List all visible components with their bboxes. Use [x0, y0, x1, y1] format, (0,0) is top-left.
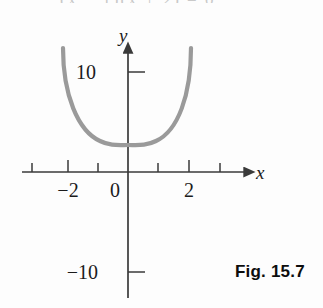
x-tick-label--2: −2: [57, 180, 78, 200]
y-tick-label--10: −10: [67, 262, 98, 282]
x-axis-label: x: [256, 163, 264, 182]
y-tick-label-10: 10: [76, 62, 96, 82]
x-tick-label-0: 0: [110, 180, 120, 200]
y-axis-label: y: [119, 26, 127, 45]
figure-container: (x − 1)(x + 2) = 0 y x: [0, 0, 323, 308]
figure-caption: Fig. 15.7: [235, 262, 305, 282]
x-axis-ticks: [32, 160, 220, 172]
x-tick-label-2: 2: [184, 180, 194, 200]
